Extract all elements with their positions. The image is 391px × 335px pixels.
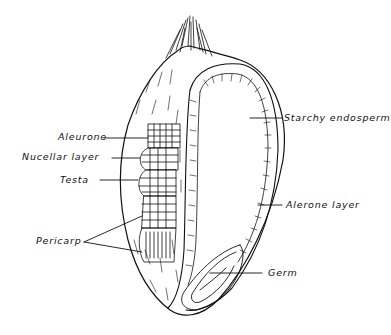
aleurone-band	[200, 74, 268, 262]
pericarp-block-2	[139, 228, 176, 262]
brush-hairs	[166, 16, 212, 58]
label-pericarp: Pericarp	[36, 235, 82, 246]
label-testa: Testa	[60, 174, 89, 185]
nucellar-block	[140, 148, 178, 170]
label-aleurone: Aleurone	[58, 131, 107, 142]
aleurone-block	[148, 124, 180, 148]
testa-block	[139, 170, 176, 196]
leader-pericarp-lower	[84, 242, 142, 252]
pericarp-block-1	[142, 196, 176, 228]
label-starchy-endosperm: Starchy endosperm	[284, 112, 391, 123]
label-alerone-layer: Alerone layer	[286, 199, 360, 210]
label-nucellar-layer: Nucellar layer	[22, 151, 99, 162]
surface-striations	[134, 70, 181, 300]
endosperm-boundary	[168, 90, 190, 308]
label-germ: Germ	[268, 267, 298, 278]
leader-pericarp-upper	[84, 216, 142, 242]
